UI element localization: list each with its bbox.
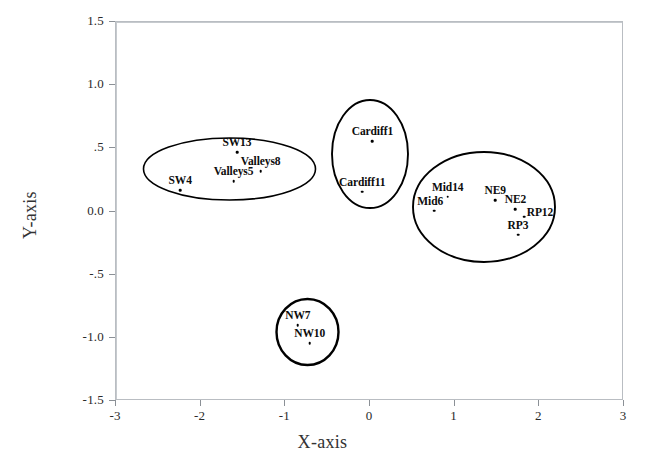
data-point-label: Mid6 [417, 195, 443, 207]
y-tick-mark [109, 337, 115, 338]
y-tick-label: 0.0 [64, 203, 104, 219]
y-tick-mark [109, 211, 115, 212]
y-tick-mark [109, 400, 115, 401]
x-axis-title: X-axis [0, 432, 645, 453]
x-tick-mark [454, 400, 455, 406]
y-tick-mark [109, 274, 115, 275]
y-tick-mark [109, 147, 115, 148]
data-point [259, 170, 262, 173]
data-point-label: NE2 [505, 193, 526, 205]
y-axis-title: Y-axis [20, 191, 41, 239]
data-point-label: NE9 [484, 184, 505, 196]
data-point-label: RP12 [527, 206, 553, 218]
data-point [361, 190, 364, 193]
data-point [446, 195, 449, 198]
x-tick-mark [200, 400, 201, 406]
x-tick-label: 0 [366, 408, 373, 424]
y-tick-label: -.5 [64, 266, 104, 282]
x-tick-label: -2 [194, 408, 205, 424]
x-tick-mark [115, 400, 116, 406]
scatter-plot-figure: -3-2-10123 1.51.0.50.0-.5-1.0-1.5 SW13Va… [0, 0, 645, 464]
y-tick-label: -1.5 [64, 392, 104, 408]
data-point-label: SW4 [169, 174, 192, 186]
x-tick-label: 3 [620, 408, 627, 424]
y-tick-label: 1.5 [64, 13, 104, 29]
data-point [371, 140, 374, 143]
x-tick-label: -3 [109, 408, 120, 424]
vertical-zero-line [116, 22, 117, 399]
x-tick-mark [623, 400, 624, 406]
horizontal-zero-line [116, 22, 622, 23]
data-point-label: Valleys5 [214, 165, 254, 177]
data-point [232, 180, 235, 183]
data-point-label: Mid14 [432, 181, 463, 193]
data-point [494, 199, 497, 202]
data-point [179, 189, 182, 192]
data-point [433, 209, 436, 212]
x-tick-label: 2 [535, 408, 542, 424]
y-tick-label: -1.0 [64, 329, 104, 345]
data-point-label: SW13 [222, 136, 251, 148]
x-tick-mark [369, 400, 370, 406]
x-tick-mark [538, 400, 539, 406]
data-point [514, 208, 517, 211]
x-tick-label: 1 [450, 408, 457, 424]
data-point-label: Cardiff11 [339, 176, 385, 188]
y-tick-label: .5 [64, 139, 104, 155]
y-tick-mark [109, 84, 115, 85]
data-point-label: NW10 [294, 327, 325, 339]
y-tick-mark [109, 21, 115, 22]
y-tick-label: 1.0 [64, 76, 104, 92]
x-tick-label: -1 [279, 408, 290, 424]
data-point [308, 342, 311, 345]
data-point [236, 151, 239, 154]
data-point [517, 233, 520, 236]
x-tick-mark [284, 400, 285, 406]
data-point-label: Cardiff1 [352, 125, 393, 137]
data-point-label: NW7 [285, 309, 310, 321]
data-point-label: RP3 [508, 219, 529, 231]
